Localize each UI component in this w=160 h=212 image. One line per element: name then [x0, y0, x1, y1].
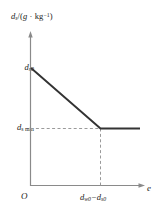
data-curve: [31, 68, 140, 129]
y-axis-arrowhead: [28, 31, 32, 38]
x-axis-arrowhead: [139, 183, 146, 187]
figure-container: ds/(g · kg−1) ds0 ds min dw0−ds0 O e: [0, 0, 160, 212]
plot-area: [0, 0, 160, 212]
